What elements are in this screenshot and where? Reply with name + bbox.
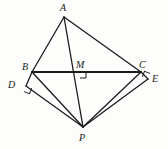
point-label-e: E [152, 74, 158, 84]
segment-cp [83, 72, 141, 127]
point-label-c: C [139, 60, 146, 70]
segment-ep [83, 79, 148, 127]
point-label-b: B [22, 62, 28, 72]
right-angle-layer [24, 71, 150, 93]
point-label-a: A [60, 3, 66, 13]
segment-ab [32, 17, 64, 72]
point-label-d: D [8, 80, 15, 90]
segment-dp [26, 86, 83, 127]
figure-canvas [0, 0, 168, 149]
segment-bd [26, 72, 32, 86]
point-label-m: M [76, 60, 84, 70]
point-label-p: P [79, 133, 85, 143]
segment-layer [26, 17, 148, 127]
segment-ce [141, 72, 148, 79]
geometry-figure: A B C D E M P [0, 0, 168, 149]
